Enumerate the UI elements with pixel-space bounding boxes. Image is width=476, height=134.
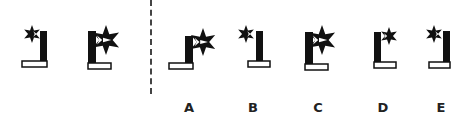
puzzle-figures	[0, 0, 476, 134]
option-a-label[interactable]: A	[184, 100, 194, 115]
star-icon	[238, 25, 254, 43]
star-icon	[24, 25, 40, 43]
option-c-figure[interactable]	[305, 25, 335, 70]
option-b-figure[interactable]	[238, 25, 270, 67]
option-e-figure[interactable]	[426, 25, 450, 68]
star-icon	[426, 25, 442, 43]
dashed-divider	[150, 0, 152, 94]
star-icon	[93, 25, 119, 55]
option-e-label[interactable]: E	[437, 100, 446, 115]
option-d-label[interactable]: D	[378, 100, 389, 115]
star-icon	[381, 27, 397, 45]
option-b-label[interactable]: B	[248, 100, 258, 115]
option-c-label[interactable]: C	[313, 100, 323, 115]
option-d-figure[interactable]	[374, 27, 397, 68]
option-a-figure[interactable]	[169, 28, 215, 69]
star-icon	[191, 28, 215, 56]
question-figure-1	[22, 25, 47, 67]
question-figure-2	[88, 25, 119, 69]
